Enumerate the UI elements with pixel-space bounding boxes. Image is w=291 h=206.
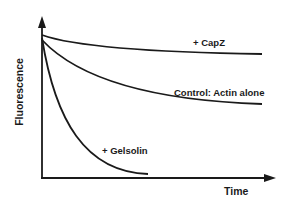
x-axis-label: Time xyxy=(224,185,248,197)
y-axis-label: Fluorescence xyxy=(13,57,25,127)
series-label-capz: + CapZ xyxy=(193,37,225,48)
chart-canvas xyxy=(0,0,291,206)
series-label-gelsolin: + Gelsolin xyxy=(102,145,148,156)
x-axis-arrow-icon xyxy=(264,174,276,182)
y-axis-arrow-icon xyxy=(38,16,46,28)
series-capz-line xyxy=(42,35,262,54)
series-label-control: Control: Actin alone xyxy=(174,87,264,98)
